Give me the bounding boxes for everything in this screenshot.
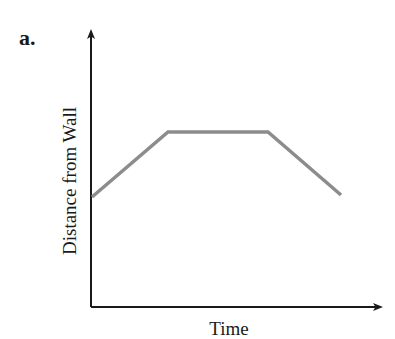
- y-axis-label: Distance from Wall: [59, 107, 81, 255]
- x-axis-label: Time: [209, 318, 248, 339]
- distance-series-line: [92, 132, 341, 197]
